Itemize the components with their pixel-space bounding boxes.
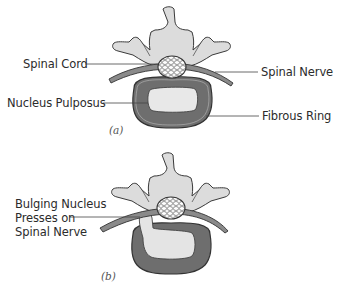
label-bulging-line3: Spinal Nerve [15,225,87,239]
vertebra-herniated [100,153,229,274]
label-bulging-line2: Presses on [15,211,75,225]
vertebra-normal [109,7,233,128]
caption-a: (a) [109,124,123,136]
label-nucleus-pulposus: Nucleus Pulposus [7,96,106,110]
spinal-cord [157,197,185,219]
nucleus-pulposus [148,87,198,112]
caption-b: (b) [101,270,116,282]
spine-diagram [0,0,338,289]
label-bulging-line1: Bulging Nucleus [15,197,106,211]
label-fibrous-ring: Fibrous Ring [262,109,331,123]
spinal-cord [158,56,186,78]
label-spinal-nerve: Spinal Nerve [261,65,333,79]
label-spinal-cord: Spinal Cord [23,57,88,71]
